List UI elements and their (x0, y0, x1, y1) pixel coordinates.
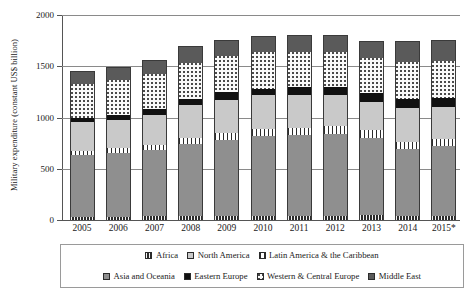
x-tick-label-2015: 2015* (422, 223, 466, 233)
bar-segment-asia-and-oceania (323, 134, 348, 216)
plot-area: 0500100015002000 20052006200720082009201… (62, 15, 460, 220)
bar-segment-asia-and-oceania (214, 140, 239, 216)
legend-item-eastern-europe[interactable]: Eastern Europe (184, 272, 248, 281)
bar-segment-middle-east (142, 60, 167, 74)
bar-segment-latin-america-the-caribbean (106, 148, 131, 153)
bar-segment-africa (287, 216, 312, 220)
bar-segment-africa (142, 216, 167, 220)
legend: AfricaNorth AmericaLatin America & the C… (60, 244, 464, 288)
bar-segment-asia-and-oceania (70, 155, 95, 217)
bar-segment-eastern-europe (287, 87, 312, 94)
bar-segment-eastern-europe (323, 87, 348, 95)
bar-segment-middle-east (214, 40, 239, 56)
bar-segment-north-america (359, 102, 384, 130)
bar-segment-eastern-europe (359, 93, 384, 101)
bar-segment-eastern-europe (142, 109, 167, 115)
bar-segment-middle-east (251, 36, 276, 53)
bar-segment-africa (359, 215, 384, 220)
bar-segment-eastern-europe (251, 89, 276, 96)
bar-segment-asia-and-oceania (142, 150, 167, 216)
legend-item-north-america[interactable]: North America (187, 251, 249, 260)
bar-segment-middle-east (431, 40, 456, 61)
bar-segment-middle-east (106, 67, 131, 80)
bar-segment-north-america (70, 122, 95, 151)
bar-segment-africa (395, 216, 420, 220)
legend-swatch-icon (145, 252, 152, 259)
bar-segment-middle-east (70, 71, 95, 83)
bar-segment-asia-and-oceania (178, 144, 203, 216)
bar-segment-latin-america-the-caribbean (214, 133, 239, 140)
bar-segment-latin-america-the-caribbean (178, 138, 203, 144)
bar-segment-asia-and-oceania (431, 146, 456, 216)
legend-swatch-icon (257, 273, 264, 280)
bar-group (62, 15, 460, 220)
y-axis-title: Military expenditure (constant US$ billi… (9, 15, 19, 215)
legend-label: Middle East (379, 272, 421, 281)
legend-row-1: AfricaNorth AmericaLatin America & the C… (61, 245, 463, 266)
bar-segment-western-central-europe (142, 74, 167, 109)
bar-segment-middle-east (395, 41, 420, 63)
bar-segment-western-central-europe (214, 56, 239, 93)
bar-segment-africa (70, 217, 95, 220)
bar-segment-africa (431, 216, 456, 220)
bar-segment-north-america (214, 100, 239, 133)
y-tick-label-2000: 2000 (36, 11, 54, 20)
bar-segment-africa (106, 217, 131, 220)
bar-segment-latin-america-the-caribbean (251, 129, 276, 136)
bar-segment-asia-and-oceania (287, 135, 312, 216)
bar-segment-western-central-europe (431, 61, 456, 98)
bar-segment-asia-and-oceania (251, 136, 276, 216)
bar-segment-western-central-europe (287, 52, 312, 88)
bar-segment-north-america (395, 108, 420, 142)
bar-segment-eastern-europe (70, 118, 95, 122)
legend-item-latin-america-the-caribbean[interactable]: Latin America & the Caribbean (259, 251, 379, 260)
bar-segment-middle-east (323, 35, 348, 52)
y-tick-label-0: 0 (50, 216, 55, 225)
legend-swatch-icon (259, 252, 266, 259)
bar-segment-western-central-europe (395, 62, 420, 99)
legend-swatch-icon (368, 273, 375, 280)
legend-label: Africa (156, 251, 178, 260)
bar-segment-latin-america-the-caribbean (323, 126, 348, 133)
bar-segment-eastern-europe (214, 92, 239, 99)
legend-item-western-central-europe[interactable]: Western & Central Europe (257, 272, 360, 281)
legend-swatch-icon (184, 273, 191, 280)
bar-segment-africa (178, 216, 203, 220)
bar-segment-latin-america-the-caribbean (142, 145, 167, 151)
y-tick-label-1000: 1000 (36, 113, 54, 122)
bar-segment-eastern-europe (431, 98, 456, 107)
bar-segment-north-america (431, 107, 456, 139)
bar-segment-asia-and-oceania (359, 138, 384, 216)
y-tick-label-500: 500 (41, 164, 55, 173)
bar-segment-north-america (251, 95, 276, 128)
bar-segment-asia-and-oceania (106, 153, 131, 217)
legend-label: Eastern Europe (194, 272, 247, 281)
legend-label: North America (198, 251, 250, 260)
x-axis-line (62, 220, 460, 221)
bar-segment-eastern-europe (395, 99, 420, 108)
bar-segment-africa (323, 216, 348, 221)
legend-label: Latin America & the Caribbean (269, 251, 379, 260)
bar-segment-asia-and-oceania (395, 149, 420, 216)
legend-swatch-icon (187, 252, 194, 259)
bar-segment-western-central-europe (178, 63, 203, 99)
bar-segment-latin-america-the-caribbean (359, 130, 384, 138)
bar-segment-north-america (287, 95, 312, 128)
bar-segment-western-central-europe (323, 52, 348, 87)
bar-segment-western-central-europe (251, 52, 276, 88)
legend-swatch-icon (103, 273, 110, 280)
legend-item-asia-and-oceania[interactable]: Asia and Oceania (103, 272, 175, 281)
legend-item-africa[interactable]: Africa (145, 251, 178, 260)
bar-segment-latin-america-the-caribbean (287, 128, 312, 135)
bar-segment-north-america (323, 95, 348, 126)
legend-row-2: Asia and OceaniaEastern EuropeWestern & … (61, 266, 463, 287)
bar-segment-latin-america-the-caribbean (70, 151, 95, 156)
bar-segment-africa (251, 216, 276, 220)
military-expenditure-chart: Military expenditure (constant US$ billi… (0, 0, 474, 292)
bar-segment-western-central-europe (70, 84, 95, 118)
y-tick-label-1500: 1500 (36, 62, 54, 71)
bar-segment-western-central-europe (359, 58, 384, 94)
bar-segment-middle-east (359, 41, 384, 58)
bar-segment-latin-america-the-caribbean (431, 139, 456, 146)
legend-item-middle-east[interactable]: Middle East (368, 272, 421, 281)
